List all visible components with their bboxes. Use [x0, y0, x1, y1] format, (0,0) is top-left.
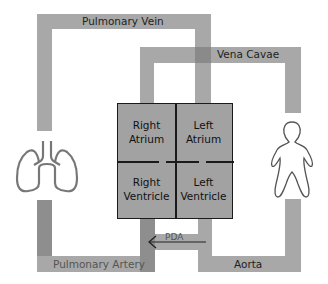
- chamber-label: Ventricle: [181, 190, 227, 204]
- right-ventricle: RightVentricle: [118, 161, 175, 218]
- chamber-label: Atrium: [129, 133, 164, 147]
- vessel-crossing: [195, 47, 211, 63]
- left-atrium: LeftAtrium: [175, 104, 232, 161]
- pulmonary-vein-left: [37, 14, 52, 131]
- chamber-label: Ventricle: [124, 190, 170, 204]
- vena-cavae-label: Vena Cavae: [217, 48, 279, 60]
- pulmonary-vein-label: Pulmonary Vein: [82, 15, 164, 27]
- left-ventricle: LeftVentricle: [175, 161, 232, 218]
- right-atrium: RightAtrium: [118, 104, 175, 161]
- lungs-icon: [14, 138, 80, 196]
- chamber-label: Right: [124, 176, 170, 190]
- chamber-label: Atrium: [186, 133, 221, 147]
- aorta-label: Aorta: [234, 258, 262, 270]
- chamber-label: Left: [181, 176, 227, 190]
- chamber-label: Right: [129, 119, 164, 133]
- heart: RightAtrium LeftAtrium RightVentricle Le…: [117, 103, 233, 219]
- person-icon: [268, 120, 316, 200]
- pda-label: PDA: [165, 232, 183, 242]
- vena-cavae-right: [285, 47, 301, 113]
- aorta-right: [285, 199, 301, 272]
- vena-cavae-left: [140, 47, 154, 103]
- chamber-label: Left: [186, 119, 221, 133]
- pulmonary-artery-label: Pulmonary Artery: [53, 258, 145, 270]
